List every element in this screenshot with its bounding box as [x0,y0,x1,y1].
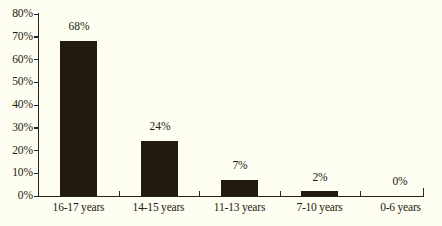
x-tick-mark-4 [360,191,361,196]
bar-7-10-years [301,191,338,196]
bar-value-14-15-years: 24% [134,121,186,133]
x-axis-label-7-10-years: 7-10 years [279,202,360,214]
x-axis-end-tick [423,188,424,196]
x-tick-mark-1 [119,191,120,196]
x-axis-label-16-17-years: 16-17 years [38,202,119,214]
bar-value-7-10-years: 2% [294,172,346,184]
bar-value-0-6-years: 0% [374,176,426,188]
x-tick-mark-2 [199,191,200,196]
bar-chart: 80% 70% 60% 50% 40% 30% 20% 10% 0% [0,0,442,226]
bar-value-11-13-years: 7% [214,160,266,172]
bar-16-17-years [60,41,97,196]
x-axis-label-11-13-years: 11-13 years [199,202,280,214]
y-axis-line [38,13,39,197]
bar-14-15-years [141,141,178,196]
x-tick-mark-3 [280,191,281,196]
x-axis-label-14-15-years: 14-15 years [118,202,199,214]
bar-11-13-years [221,180,258,196]
bar-value-16-17-years: 68% [53,21,105,33]
x-axis-label-0-6-years: 0-6 years [360,202,441,214]
